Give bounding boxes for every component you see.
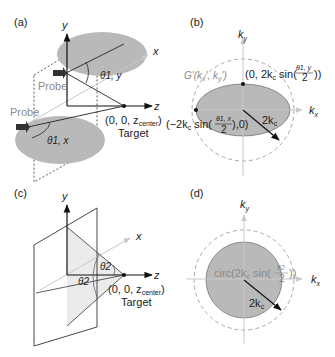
target-point-c	[122, 273, 126, 277]
g-function-label: G'(kx', ky')	[184, 70, 227, 83]
kx-label-b: kx	[309, 104, 319, 118]
left-point-b	[194, 108, 198, 112]
left-frac-num: θ1, x	[216, 115, 232, 122]
panel-b: (b) ky kx G'(kx', ky') (0, 2kc sin( θ1, …	[166, 16, 321, 176]
theta2-label-1: θ2	[100, 261, 111, 272]
z-axis-label-c: z	[153, 269, 160, 281]
left-point-label: (−2kc sin(	[166, 118, 212, 131]
panel-b-label: (b)	[190, 16, 203, 28]
probe-bottom-icon	[16, 124, 27, 130]
figure: (a) x y z Probe Probe θ1, y θ1, x	[0, 0, 335, 357]
top-close: ))	[314, 68, 321, 80]
theta-1y-label: θ1, y	[100, 70, 123, 81]
circ-frac-den: 2	[279, 273, 285, 284]
left-close: ),0)	[232, 118, 249, 130]
kx-label-d: kx	[311, 273, 321, 287]
probe-top-label: Probe	[38, 80, 67, 92]
target-coord-a: (0, 0, zcenter)	[105, 114, 162, 127]
panel-c-label: (c)	[14, 187, 27, 199]
top-frac-num: θ1, y	[296, 64, 312, 72]
circ-frac-num: θ2	[277, 264, 285, 271]
ky-label-b: ky	[238, 28, 248, 43]
probe-bottom-label: Probe	[10, 106, 39, 118]
top-point-b	[241, 82, 245, 86]
x-axis-label-a: x	[152, 45, 159, 57]
target-point-a	[122, 104, 126, 108]
theta-1x-label: θ1, x	[47, 135, 70, 146]
left-frac-den: 2	[221, 124, 227, 135]
y-axis-label-a: y	[61, 19, 69, 31]
theta2-label-2: θ2	[78, 276, 89, 287]
x-axis-label-c: x	[135, 230, 142, 242]
top-frac-den: 2	[302, 72, 308, 83]
z-axis-label-a: z	[153, 100, 160, 112]
circ-label: circ(2kc sin(	[214, 267, 271, 280]
panel-a: (a) x y z Probe Probe θ1, y θ1, x	[10, 16, 162, 182]
y-axis-label-c: y	[61, 190, 69, 202]
ky-label-d: ky	[240, 198, 250, 213]
panel-d: (d) ky kx circ(2kc sin( θ2 2 )) 2kc	[186, 187, 321, 344]
panel-d-label: (d)	[190, 187, 203, 199]
panel-a-label: (a)	[14, 16, 27, 28]
top-point-label: (0, 2kc sin(	[245, 68, 297, 81]
panel-c: (c) x y z θ2 θ2 (0, 0, zcenter) Target	[14, 187, 165, 346]
probe-top-icon	[53, 70, 64, 76]
target-label-a: Target	[118, 127, 149, 139]
circ-close: ))	[289, 267, 296, 279]
target-label-c: Target	[121, 296, 152, 308]
target-coord-c: (0, 0, zcenter)	[108, 283, 165, 296]
